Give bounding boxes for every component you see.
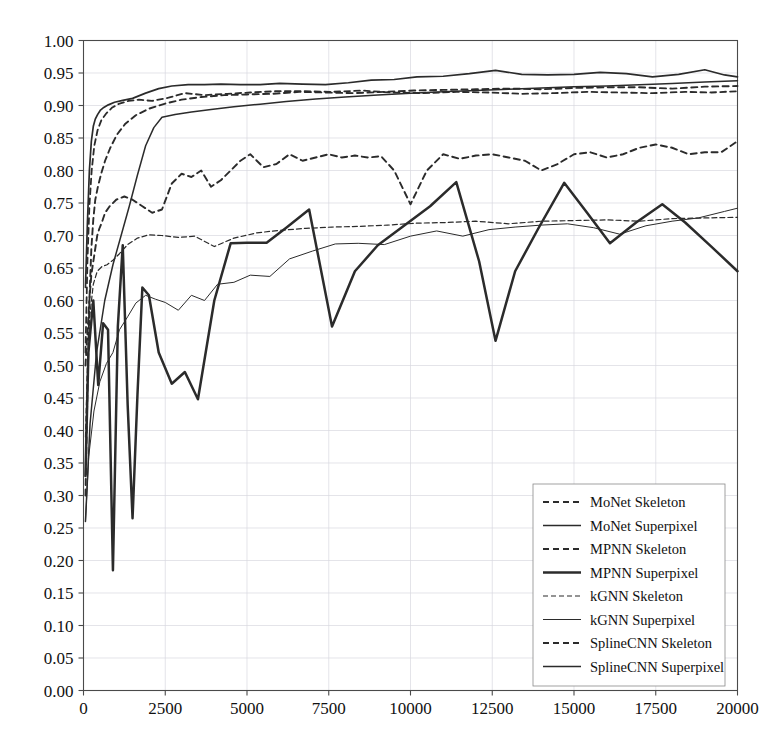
y-tick-label: 0.55 bbox=[44, 324, 74, 343]
x-tick-label: 20000 bbox=[716, 699, 759, 718]
legend-label: MoNet Skeleton bbox=[590, 494, 686, 510]
y-tick-label: 0.10 bbox=[44, 617, 74, 636]
y-tick-label: 0.80 bbox=[44, 162, 74, 181]
legend-label: MPNN Superpixel bbox=[590, 565, 698, 581]
x-tick-label: 0 bbox=[79, 699, 88, 718]
y-tick-label: 0.95 bbox=[44, 64, 74, 83]
x-tick-label: 10000 bbox=[389, 699, 432, 718]
y-tick-label: 0.75 bbox=[44, 194, 74, 213]
y-tick-label: 0.60 bbox=[44, 292, 74, 311]
legend-label: SplineCNN Superpixel bbox=[590, 659, 724, 675]
x-tick-label: 15000 bbox=[553, 699, 596, 718]
y-tick-label: 0.70 bbox=[44, 227, 74, 246]
legend-label: kGNN Superpixel bbox=[590, 612, 695, 628]
x-tick-label: 5000 bbox=[230, 699, 264, 718]
legend-label: MoNet Superpixel bbox=[590, 518, 698, 534]
x-tick-label: 2500 bbox=[148, 699, 182, 718]
y-tick-label: 0.45 bbox=[44, 389, 74, 408]
legend-box bbox=[533, 484, 725, 686]
y-tick-label: 0.25 bbox=[44, 519, 74, 538]
legend-label: MPNN Skeleton bbox=[590, 541, 687, 557]
y-tick-label: 0.50 bbox=[44, 357, 74, 376]
y-tick-label: 0.65 bbox=[44, 259, 74, 278]
legend-label: SplineCNN Skeleton bbox=[590, 635, 713, 651]
y-tick-label: 0.85 bbox=[44, 129, 74, 148]
legend-label: kGNN Skeleton bbox=[590, 588, 684, 604]
y-tick-label: 0.15 bbox=[44, 584, 74, 603]
y-tick-label: 0.00 bbox=[44, 682, 74, 701]
x-tick-label: 7500 bbox=[312, 699, 346, 718]
line-chart-figure: 02500500075001000012500150001750020000 0… bbox=[0, 0, 778, 747]
y-tick-label: 0.20 bbox=[44, 552, 74, 571]
y-tick-label: 0.40 bbox=[44, 422, 74, 441]
chart-legend: MoNet SkeletonMoNet SuperpixelMPNN Skele… bbox=[533, 484, 725, 686]
x-tick-label: 12500 bbox=[471, 699, 514, 718]
x-tick-label: 17500 bbox=[635, 699, 678, 718]
y-tick-label: 0.30 bbox=[44, 487, 74, 506]
y-tick-label: 0.35 bbox=[44, 454, 74, 473]
y-tick-label: 1.00 bbox=[44, 32, 74, 51]
y-tick-label: 0.05 bbox=[44, 649, 74, 668]
y-tick-label: 0.90 bbox=[44, 97, 74, 116]
